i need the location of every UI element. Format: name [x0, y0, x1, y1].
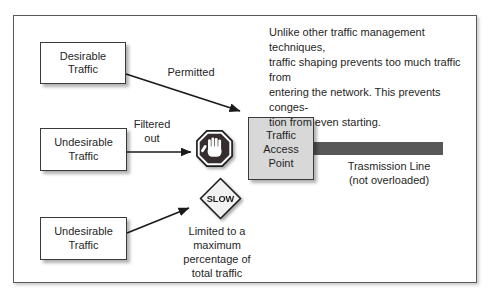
node-undesirable-traffic-top: Undesirable Traffic	[40, 128, 127, 171]
node-undesirable-traffic-bottom: Undesirable Traffic	[40, 217, 127, 260]
stop-hand-icon	[196, 130, 233, 167]
slow-sign-label: SLOW	[207, 194, 235, 204]
transmission-line-bar	[312, 142, 443, 155]
label-filtered-out: Filtered out	[128, 118, 176, 145]
label-limited-percentage: Limited to a maximum percentage of total…	[170, 224, 264, 280]
node-desirable-traffic: Desirable Traffic	[40, 42, 126, 84]
description-text: Unlike other traffic management techniqu…	[269, 25, 471, 130]
traffic-shaping-figure: Desirable Traffic Undesirable Traffic Un…	[0, 0, 489, 296]
label-transmission-line: Trasmission Line (not overloaded)	[327, 159, 451, 187]
slow-sign-icon: SLOW	[199, 177, 242, 220]
label-permitted: Permitted	[158, 66, 224, 80]
